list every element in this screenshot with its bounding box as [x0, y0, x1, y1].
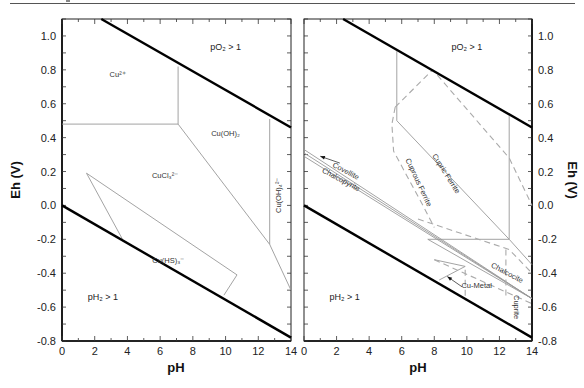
- x-tick-label: 8: [431, 345, 437, 357]
- x-tick-label: 2: [92, 345, 98, 357]
- x-tick-label: 12: [252, 345, 264, 357]
- y-tick-label: 1.0: [538, 30, 553, 42]
- left-x-axis-title: pH: [167, 360, 184, 375]
- x-tick-label: 14: [285, 345, 297, 357]
- region-label: pO₂ > 1: [210, 42, 241, 52]
- y-tick-label: -0.6: [538, 301, 557, 313]
- x-tick-label: 6: [399, 345, 405, 357]
- y-tick-label: 0.8: [41, 64, 56, 76]
- y-tick-label: 0.6: [538, 98, 553, 110]
- x-tick-label: 8: [190, 345, 196, 357]
- y-tick-label: -0.8: [37, 335, 56, 347]
- left-eh-ph-panel: 02468101214-0.8-0.6-0.4-0.20.00.20.40.60…: [37, 19, 297, 357]
- region-label: pH₂ > 1: [330, 292, 360, 302]
- y-tick-label: 0.4: [538, 132, 553, 144]
- x-tick-label: 6: [157, 345, 163, 357]
- region-label: Cu(OH)₂: [211, 129, 240, 138]
- y-tick-label: -0.4: [538, 267, 557, 279]
- x-tick-label: 2: [334, 345, 340, 357]
- region-label: pH₂ > 1: [88, 292, 118, 302]
- region-label: Cu-Metal: [461, 281, 492, 290]
- right-y-axis-title: Eh (V): [565, 161, 580, 199]
- y-tick-label: 0.0: [538, 199, 553, 211]
- x-tick-label: 14: [526, 345, 538, 357]
- x-tick-label: 12: [493, 345, 505, 357]
- right-eh-ph-panel: 02468101214-0.8-0.6-0.4-0.20.00.20.40.60…: [301, 19, 557, 357]
- x-tick-label: 4: [366, 345, 372, 357]
- y-tick-label: 0.4: [41, 132, 56, 144]
- x-tick-label: 10: [461, 345, 473, 357]
- y-tick-label: -0.8: [538, 335, 557, 347]
- eh-ph-diagrams: 02468101214-0.8-0.6-0.4-0.20.00.20.40.60…: [0, 0, 584, 388]
- x-tick-label: 0: [59, 345, 65, 357]
- x-tick-label: 0: [301, 345, 307, 357]
- region-label: pO₂ > 1: [451, 42, 482, 52]
- y-tick-label: 0.0: [41, 199, 56, 211]
- y-tick-label: 0.8: [538, 64, 553, 76]
- y-tick-label: 1.0: [41, 30, 56, 42]
- region-label: Cu²⁺: [110, 70, 126, 79]
- y-tick-label: -0.4: [37, 267, 56, 279]
- region-label: Cu(HS)₃⁻: [152, 256, 184, 265]
- region-label: Cuprite: [512, 295, 521, 319]
- x-tick-label: 4: [124, 345, 130, 357]
- region-label: CuCl₃²⁻: [152, 171, 178, 180]
- y-tick-label: 0.2: [538, 166, 553, 178]
- right-x-axis-title: pH: [409, 360, 426, 375]
- left-y-axis-title: Eh (V): [8, 161, 23, 199]
- y-tick-label: -0.2: [37, 233, 56, 245]
- x-tick-label: 10: [219, 345, 231, 357]
- y-tick-label: -0.2: [538, 233, 557, 245]
- region-label: Cu(OH)₄²⁻: [274, 178, 283, 213]
- y-tick-label: 0.6: [41, 98, 56, 110]
- y-tick-label: -0.6: [37, 301, 56, 313]
- y-tick-label: 0.2: [41, 166, 56, 178]
